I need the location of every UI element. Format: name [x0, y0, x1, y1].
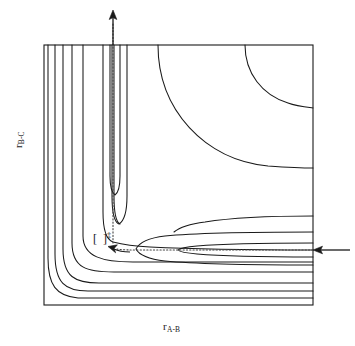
plot-frame — [44, 45, 313, 305]
y-axis-label-subscript: B-C — [17, 131, 26, 144]
ts-open-bracket: [ — [93, 232, 97, 246]
y-axis-label-symbol: r — [12, 144, 24, 148]
y-axis-label: rB-C — [12, 131, 26, 148]
x-axis-label-subscript: A-B — [167, 325, 180, 334]
transition-state-label: []‡ — [93, 231, 111, 247]
entrance-arrow — [313, 246, 350, 254]
ts-dagger-icon: ‡ — [107, 231, 111, 240]
contour-plot-svg — [0, 0, 355, 346]
x-axis-label: rA-B — [163, 320, 180, 334]
exit-arrow — [109, 10, 117, 45]
potential-energy-surface-figure: []‡ rB-C rA-B — [0, 0, 355, 346]
